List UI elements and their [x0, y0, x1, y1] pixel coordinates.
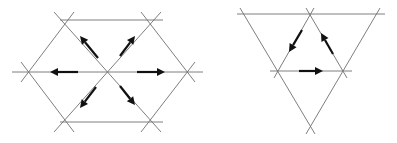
- arrow-up-right-icon: [120, 36, 135, 56]
- arrow-right-icon: [299, 67, 323, 75]
- hexagon-figure: [12, 12, 203, 132]
- lattice-diagram: [0, 0, 397, 143]
- arrow-left-icon: [50, 68, 78, 76]
- arrow-right-icon: [137, 68, 165, 76]
- arrow-up-left-icon: [321, 33, 333, 54]
- arrow-down-left-icon: [289, 30, 302, 52]
- arrow-down-left-icon: [80, 87, 96, 108]
- triangle-figure: [237, 8, 385, 134]
- arrow-down-right-icon: [120, 86, 135, 105]
- arrow-up-left-icon: [80, 36, 98, 58]
